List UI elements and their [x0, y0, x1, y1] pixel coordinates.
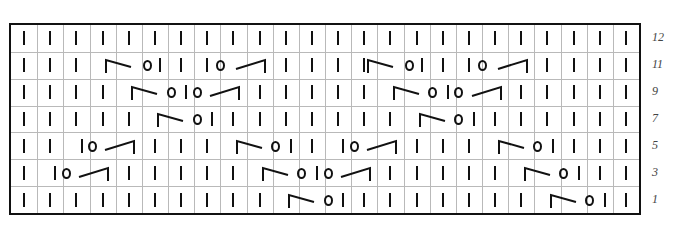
yarn-over-icon [454, 87, 463, 98]
knit-stitch-icon [49, 139, 51, 153]
left-decrease-icon [393, 85, 423, 99]
knit-stitch-icon [337, 112, 339, 126]
grid-column-line [561, 25, 562, 213]
knit-stitch-icon [154, 31, 156, 45]
right-decrease-icon [78, 166, 114, 180]
knit-stitch-icon [75, 193, 77, 207]
knit-stitch-icon [342, 193, 344, 207]
knit-stitch-icon [232, 193, 234, 207]
left-decrease-icon [524, 166, 554, 180]
knit-stitch-icon [599, 85, 601, 99]
yarn-over-icon [478, 60, 487, 71]
grid-column-line [220, 25, 221, 213]
knit-stitch-icon [468, 193, 470, 207]
knit-stitch-icon [154, 166, 156, 180]
left-decrease-icon [367, 58, 397, 72]
knit-stitch-icon [573, 112, 575, 126]
right-decrease-icon [471, 85, 507, 99]
knit-stitch-icon [23, 139, 25, 153]
grid-column-line [63, 25, 64, 213]
yarn-over-icon [143, 60, 152, 71]
knit-stitch-icon [573, 139, 575, 153]
knit-stitch-icon [285, 58, 287, 72]
knit-stitch-icon [259, 85, 261, 99]
yarn-over-icon [167, 87, 176, 98]
left-decrease-icon [105, 58, 135, 72]
yarn-over-icon [533, 141, 542, 152]
right-decrease-icon [235, 58, 271, 72]
grid-column-line [351, 25, 352, 213]
knit-stitch-icon [416, 166, 418, 180]
knit-stitch-icon [447, 85, 449, 99]
right-decrease-icon [366, 139, 402, 153]
knit-stitch-icon [494, 193, 496, 207]
knitting-chart-grid [9, 23, 641, 215]
knit-stitch-icon [75, 112, 77, 126]
knit-stitch-icon [232, 112, 234, 126]
left-decrease-icon [131, 85, 161, 99]
knit-stitch-icon [520, 31, 522, 45]
grid-column-line [508, 25, 509, 213]
yarn-over-icon [350, 141, 359, 152]
knit-stitch-icon [285, 31, 287, 45]
knit-stitch-icon [494, 166, 496, 180]
knit-stitch-icon [421, 58, 423, 72]
knit-stitch-icon [23, 193, 25, 207]
right-decrease-icon [497, 58, 533, 72]
grid-row-line [11, 79, 639, 80]
knit-stitch-icon [232, 166, 234, 180]
yarn-over-icon [324, 195, 333, 206]
knit-stitch-icon [128, 166, 130, 180]
yarn-over-icon [193, 114, 202, 125]
knit-stitch-icon [546, 58, 548, 72]
yarn-over-icon [88, 141, 97, 152]
knit-stitch-icon [578, 166, 580, 180]
knit-stitch-icon [102, 193, 104, 207]
left-decrease-icon [288, 193, 318, 207]
knit-stitch-icon [128, 193, 130, 207]
knit-stitch-icon [604, 193, 606, 207]
grid-column-line [37, 25, 38, 213]
knit-stitch-icon [154, 139, 156, 153]
knit-stitch-icon [23, 85, 25, 99]
knit-stitch-icon [416, 139, 418, 153]
knit-stitch-icon [599, 166, 601, 180]
knit-stitch-icon [75, 58, 77, 72]
knit-stitch-icon [546, 85, 548, 99]
knit-stitch-icon [468, 166, 470, 180]
knit-stitch-icon [206, 166, 208, 180]
knit-stitch-icon [363, 85, 365, 99]
knit-stitch-icon [49, 58, 51, 72]
knit-stitch-icon [599, 112, 601, 126]
left-decrease-icon [498, 139, 528, 153]
row-number-label: 5 [652, 138, 658, 153]
knit-stitch-icon [23, 112, 25, 126]
grid-column-line [377, 25, 378, 213]
grid-column-line [247, 25, 248, 213]
knit-stitch-icon [468, 31, 470, 45]
knit-stitch-icon [389, 193, 391, 207]
knit-stitch-icon [625, 166, 627, 180]
knit-stitch-icon [49, 31, 51, 45]
knit-stitch-icon [311, 58, 313, 72]
knit-stitch-icon [363, 112, 365, 126]
yarn-over-icon [585, 195, 594, 206]
knit-stitch-icon [363, 58, 365, 72]
knit-stitch-icon [311, 31, 313, 45]
knit-stitch-icon [389, 166, 391, 180]
knit-stitch-icon [389, 31, 391, 45]
knit-stitch-icon [546, 112, 548, 126]
knit-stitch-icon [180, 139, 182, 153]
yarn-over-icon [405, 60, 414, 71]
knit-stitch-icon [311, 85, 313, 99]
grid-column-line [90, 25, 91, 213]
knit-stitch-icon [468, 58, 470, 72]
yarn-over-icon [324, 168, 333, 179]
knit-stitch-icon [185, 85, 187, 99]
grid-column-line [142, 25, 143, 213]
knit-stitch-icon [128, 31, 130, 45]
knit-stitch-icon [23, 166, 25, 180]
yarn-over-icon [559, 168, 568, 179]
knit-stitch-icon [363, 31, 365, 45]
knit-stitch-icon [599, 58, 601, 72]
